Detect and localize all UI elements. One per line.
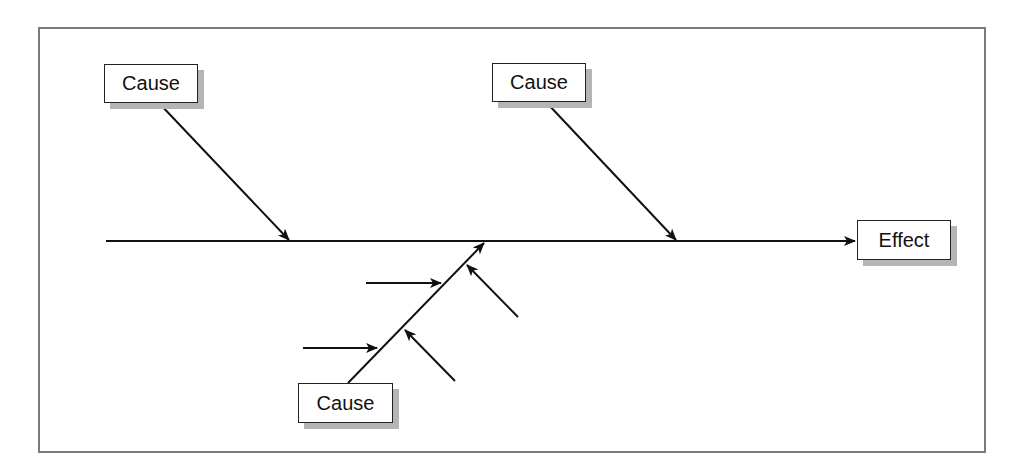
effect-box: Effect (857, 220, 951, 260)
cause-box-bottom: Cause (298, 383, 393, 423)
bone-arrow-1 (158, 102, 289, 240)
cause-box-top-left: Cause (104, 64, 198, 103)
bone-arrow-3 (348, 243, 484, 383)
sub-cause-arrow-3 (467, 265, 518, 317)
sub-cause-arrow-4 (405, 330, 455, 381)
cause-box-top-center: Cause (492, 63, 586, 102)
bone-arrow-2 (546, 102, 676, 240)
